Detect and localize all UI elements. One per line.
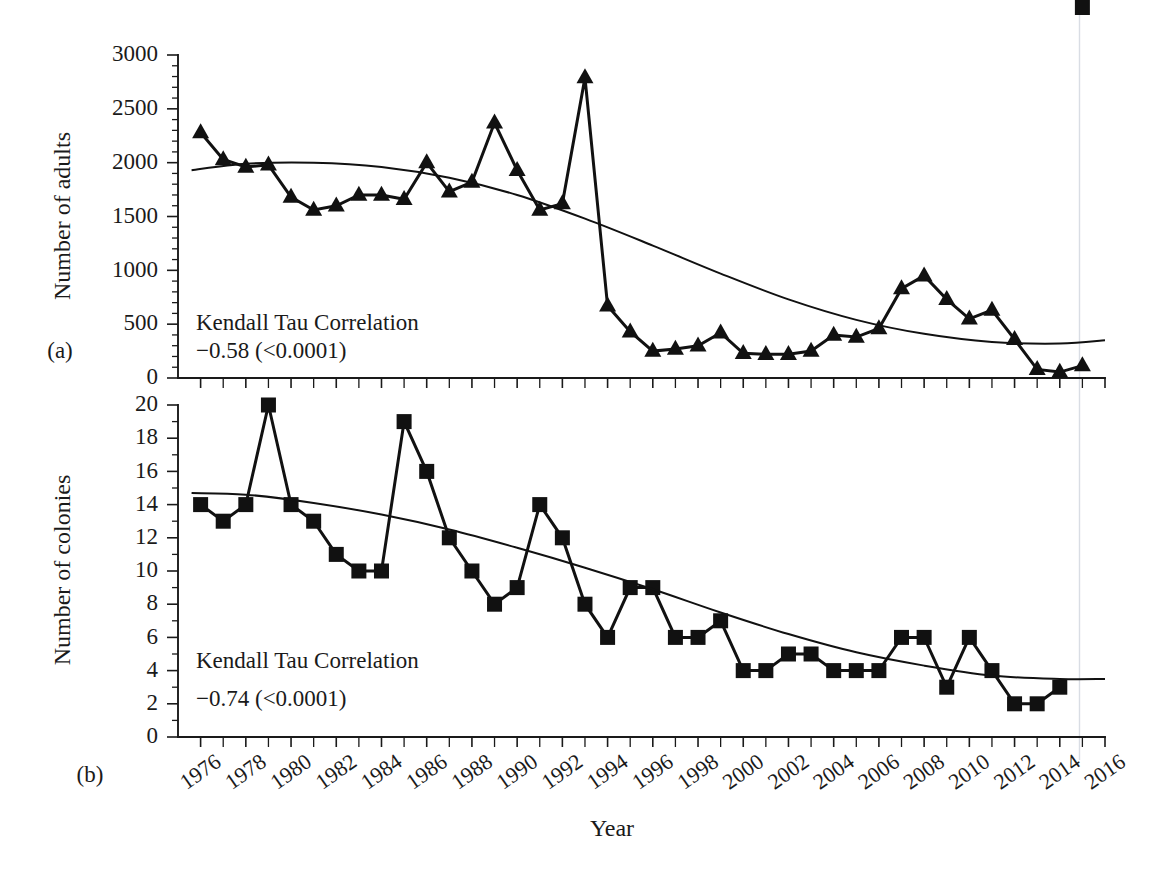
x-axis-title: Year xyxy=(590,815,634,841)
two-panel-time-series-figure: 050010001500200025003000Kendall Tau Corr… xyxy=(0,0,1149,877)
data-point-marker xyxy=(261,398,276,413)
y-axis-title: Number of colonies xyxy=(49,475,75,666)
correlation-annotation-line1: Kendall Tau Correlation xyxy=(196,648,419,673)
y-tick-label: 2500 xyxy=(112,95,158,120)
data-point-marker xyxy=(555,530,570,545)
data-point-marker xyxy=(871,663,886,678)
data-point-marker xyxy=(826,663,841,678)
y-tick-label: 500 xyxy=(124,310,159,335)
y-tick-label: 18 xyxy=(135,424,158,449)
data-point-marker xyxy=(600,630,615,645)
y-tick-label: 16 xyxy=(135,458,158,483)
correlation-annotation-line2: −0.58 (<0.0001) xyxy=(196,338,347,363)
y-tick-label: 1500 xyxy=(112,203,158,228)
data-point-marker xyxy=(804,647,819,662)
data-point-marker xyxy=(464,564,479,579)
data-point-marker xyxy=(329,547,344,562)
y-tick-label: 8 xyxy=(147,590,159,615)
data-point-marker xyxy=(1075,0,1090,15)
y-tick-label: 10 xyxy=(135,557,158,582)
y-tick-label: 14 xyxy=(135,491,159,516)
data-point-marker xyxy=(691,630,706,645)
data-point-marker xyxy=(1007,696,1022,711)
y-axis-title: Number of adults xyxy=(49,132,75,300)
y-tick-label: 20 xyxy=(135,391,158,416)
y-tick-label: 4 xyxy=(147,657,159,682)
data-point-marker xyxy=(306,514,321,529)
data-point-marker xyxy=(1030,696,1045,711)
data-point-marker xyxy=(397,414,412,429)
data-point-marker xyxy=(216,514,231,529)
panel-label: (a) xyxy=(47,338,73,363)
data-point-marker xyxy=(713,613,728,628)
data-point-marker xyxy=(374,564,389,579)
data-point-marker xyxy=(939,680,954,695)
panel-label: (b) xyxy=(77,762,104,787)
y-tick-label: 3000 xyxy=(112,41,158,66)
data-point-marker xyxy=(758,663,773,678)
data-point-marker xyxy=(487,597,502,612)
data-point-marker xyxy=(894,630,909,645)
y-tick-label: 2 xyxy=(147,690,159,715)
data-point-marker xyxy=(532,497,547,512)
y-tick-label: 0 xyxy=(147,723,159,748)
y-tick-label: 0 xyxy=(147,364,159,389)
data-point-marker xyxy=(781,647,796,662)
y-tick-label: 6 xyxy=(147,624,159,649)
data-point-marker xyxy=(962,630,977,645)
data-point-marker xyxy=(419,464,434,479)
data-point-marker xyxy=(193,497,208,512)
data-point-marker xyxy=(442,530,457,545)
y-tick-label: 2000 xyxy=(112,149,158,174)
data-point-marker xyxy=(1052,680,1067,695)
data-point-marker xyxy=(510,580,525,595)
correlation-annotation-line1: Kendall Tau Correlation xyxy=(196,310,419,335)
y-tick-label: 12 xyxy=(135,524,158,549)
data-point-marker xyxy=(849,663,864,678)
y-tick-label: 1000 xyxy=(112,257,158,282)
data-point-marker xyxy=(238,497,253,512)
correlation-annotation-line2: −0.74 (<0.0001) xyxy=(196,686,347,711)
data-point-marker xyxy=(577,597,592,612)
data-point-marker xyxy=(668,630,683,645)
figure-container: 050010001500200025003000Kendall Tau Corr… xyxy=(0,0,1149,877)
data-point-marker xyxy=(917,630,932,645)
data-point-marker xyxy=(351,564,366,579)
data-point-marker xyxy=(736,663,751,678)
